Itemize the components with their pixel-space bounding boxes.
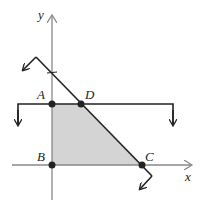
label-b: B [37, 149, 45, 164]
point-d [78, 101, 85, 108]
label-c: C [145, 149, 154, 164]
shaded-region [52, 104, 142, 165]
label-a: A [36, 87, 45, 102]
y-axis-label: y [36, 7, 44, 22]
point-b [49, 162, 56, 169]
x-axis-label: x [184, 169, 191, 184]
top-shading-arrow [23, 57, 36, 70]
feasible-region-diagram: y x A B C D [0, 0, 205, 209]
bottom-shading-arrow [140, 176, 152, 189]
label-d: D [84, 87, 95, 102]
point-a [49, 101, 56, 108]
